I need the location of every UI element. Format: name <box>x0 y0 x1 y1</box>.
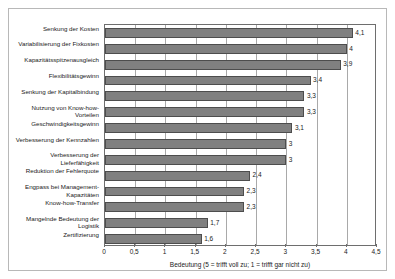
bar-value-label: 3,3 <box>307 93 316 100</box>
category-axis-labels: Senkung der KostenVariabilisierung der F… <box>17 24 101 246</box>
bar <box>105 76 311 86</box>
category-label: Variabilisierung der Fixkosten <box>15 40 99 47</box>
bar-row: 3,1 <box>105 123 375 133</box>
tick-mark <box>164 244 165 247</box>
bar <box>105 44 347 54</box>
x-tick-label: 2 <box>223 248 227 255</box>
category-label: Nutzung von Know-how-Vorteilen <box>15 104 99 119</box>
bar-row: 1,6 <box>105 234 375 244</box>
bar <box>105 139 286 149</box>
x-tick-label: 1 <box>163 248 167 255</box>
x-axis-title: Bedeutung (5 = trifft voll zu; 1 = triff… <box>104 261 376 268</box>
category-label: Reduktion der Fehlerquote <box>15 167 99 174</box>
category-label: Know-how-Transfer <box>15 199 99 206</box>
bar-value-label: 3,3 <box>307 109 316 116</box>
x-tick-label: 0 <box>102 248 106 255</box>
bar <box>105 107 304 117</box>
x-tick-label: 2,5 <box>251 248 260 255</box>
category-label: Senkung der Kapitalbindung <box>15 88 99 95</box>
category-label: Flexibilitätsgewinn <box>15 72 99 79</box>
bar-value-label: 2,3 <box>247 204 256 211</box>
category-label: Verbesserung der Lieferfähigkeit <box>15 151 99 166</box>
category-label: Mangelnde Bedeutung der Logistik <box>15 215 99 230</box>
bar-row: 3,3 <box>105 107 375 117</box>
bar-row: 4,1 <box>105 28 375 38</box>
category-label: Geschwindigkeitsgewinn <box>15 120 99 127</box>
bar-value-label: 3 <box>289 157 293 164</box>
tick-mark <box>285 244 286 247</box>
x-axis-ticks: 00,511,522,533,544,5 <box>104 248 376 260</box>
chart-frame: Senkung der KostenVariabilisierung der F… <box>8 8 387 271</box>
x-tick-label: 0,5 <box>130 248 139 255</box>
bar <box>105 91 304 101</box>
bar-value-label: 3,1 <box>295 125 304 132</box>
tick-mark <box>316 244 317 247</box>
category-label: Verbesserung der Kennzahlen <box>15 136 99 143</box>
bar-row: 1,7 <box>105 218 375 228</box>
bar-row: 2,3 <box>105 202 375 212</box>
category-label: Zertifizierung <box>15 231 99 238</box>
bar <box>105 28 353 38</box>
bar-row: 3 <box>105 155 375 165</box>
bar <box>105 155 286 165</box>
bar <box>105 123 292 133</box>
bar <box>105 60 341 70</box>
bar-value-label: 3,9 <box>343 61 352 68</box>
bar <box>105 234 202 244</box>
bar-value-label: 4,1 <box>355 30 364 37</box>
bars-layer: 4,143,93,43,33,33,1332,42,32,31,71,6 <box>105 25 375 245</box>
bar-row: 4 <box>105 44 375 54</box>
tick-mark <box>255 244 256 247</box>
category-label: Senkung der Kosten <box>15 25 99 32</box>
bar <box>105 218 208 228</box>
bar-row: 3,3 <box>105 91 375 101</box>
bar <box>105 187 244 197</box>
bar <box>105 171 250 181</box>
bar-row: 2,4 <box>105 171 375 181</box>
bar-value-label: 4 <box>349 46 353 53</box>
tick-mark <box>225 244 226 247</box>
bar-row: 2,3 <box>105 187 375 197</box>
x-tick-label: 3 <box>284 248 288 255</box>
tick-mark <box>376 244 377 247</box>
bar-row: 3,9 <box>105 60 375 70</box>
bar-row: 3,4 <box>105 76 375 86</box>
tick-mark <box>195 244 196 247</box>
bar-row: 3 <box>105 139 375 149</box>
bar-value-label: 2,3 <box>247 188 256 195</box>
bar <box>105 202 244 212</box>
tick-mark <box>134 244 135 247</box>
x-tick-label: 1,5 <box>190 248 199 255</box>
bar-value-label: 3 <box>289 141 293 148</box>
bar-value-label: 2,4 <box>253 172 262 179</box>
category-label: Kapazitätsspitzenausgleich <box>15 56 99 63</box>
bar-value-label: 1,6 <box>204 236 213 243</box>
plot-area: 4,143,93,43,33,33,1332,42,32,31,71,6 <box>104 24 376 246</box>
category-label: Engpass bei Management-Kapazitäten <box>15 183 99 198</box>
x-tick-label: 4,5 <box>371 248 380 255</box>
tick-mark <box>104 244 105 247</box>
x-tick-label: 3,5 <box>311 248 320 255</box>
tick-mark <box>346 244 347 247</box>
x-tick-label: 4 <box>344 248 348 255</box>
bar-value-label: 1,7 <box>210 220 219 227</box>
bar-value-label: 3,4 <box>313 77 322 84</box>
